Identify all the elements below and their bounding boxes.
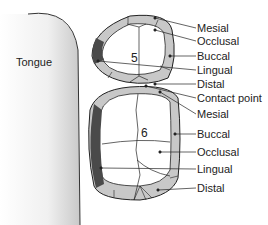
label-t6-occlusal: Occlusal [197, 146, 239, 158]
label-t5-mesial: Mesial [197, 22, 229, 34]
label-t5-occlusal: Occlusal [197, 35, 239, 47]
label-t6-lingual: Lingual [197, 163, 232, 175]
tongue-label: Tongue [16, 56, 52, 68]
tooth-5 [92, 15, 174, 83]
label-t5-buccal: Buccal [197, 50, 230, 62]
label-t6-distal: Distal [197, 182, 225, 194]
label-t5-distal: Distal [197, 78, 225, 90]
label-contact-point: Contact point [197, 92, 262, 104]
tooth-6 [89, 86, 180, 200]
label-t5-lingual: Lingual [197, 64, 232, 76]
label-t6-buccal: Buccal [197, 128, 230, 140]
tooth-6-number: 6 [141, 127, 148, 139]
tongue-shape [0, 13, 80, 225]
label-t6-mesial: Mesial [197, 108, 229, 120]
tooth-5-number: 5 [131, 52, 138, 64]
